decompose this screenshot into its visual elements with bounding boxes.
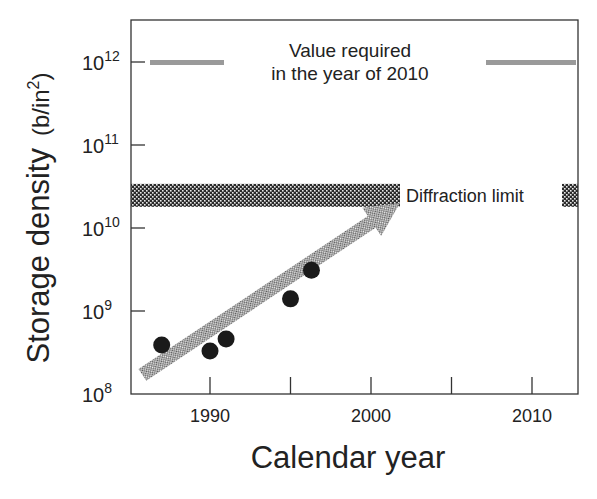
y-tick-label: 109 [82, 297, 112, 323]
data-point [303, 262, 320, 279]
value-required-line-left [150, 60, 224, 65]
data-point [282, 290, 299, 307]
diffraction-limit-label: Diffraction limit [406, 186, 524, 206]
value-required-label-line2: in the year of 2010 [271, 63, 428, 84]
x-tick-label: 2010 [512, 406, 552, 426]
y-axis-unit: (b/in [27, 89, 54, 136]
y-axis-label: Storage density(b/in2) [21, 72, 56, 363]
data-point [153, 336, 170, 353]
y-tick-label: 1012 [82, 48, 120, 74]
x-axis-label: Calendar year [251, 440, 446, 475]
y-axis-label-text: Storage density [21, 148, 56, 364]
diffraction-limit-band [131, 184, 400, 207]
plot-area: Value requiredin the year of 2010Diffrac… [131, 40, 578, 389]
y-tick-label: 1011 [82, 131, 119, 157]
x-tick-label: 2000 [351, 406, 391, 426]
y-tick-label: 1010 [82, 214, 120, 240]
y-axis-unit-superscript: 2 [25, 80, 42, 89]
diffraction-limit-band-right [562, 184, 578, 207]
data-point [218, 330, 235, 347]
value-required-label-line1: Value required [289, 40, 411, 61]
y-tick-label: 108 [82, 380, 112, 406]
trend-arrow [133, 189, 409, 389]
x-tick-label: 1990 [190, 406, 230, 426]
storage-density-chart: Value requiredin the year of 2010Diffrac… [0, 0, 597, 499]
data-point [202, 342, 219, 359]
value-required-line-right [486, 60, 576, 65]
